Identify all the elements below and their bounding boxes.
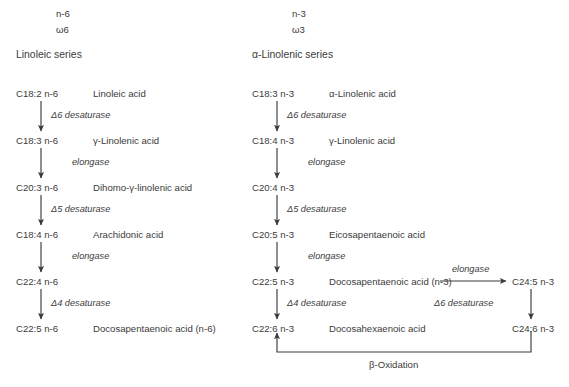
- right-step-5-acid: Docosapentaenoic acid (n-3): [329, 277, 452, 287]
- branch-bottom-code: C24:6 n-3: [512, 324, 554, 334]
- right-step-1-code: C18:3 n-3: [252, 89, 294, 99]
- right-step-1-acid: α-Linolenic acid: [329, 89, 396, 99]
- pathway-diagram: n-6 ω6 Linoleic series C18:2 n-6 Linolei…: [0, 0, 569, 387]
- left-step-1-code: C18:2 n-6: [16, 89, 58, 99]
- right-omega-n-label: n-3: [292, 9, 306, 19]
- branch-top-code: C24:5 n-3: [512, 277, 554, 287]
- right-enzyme-2: elongase: [308, 158, 345, 167]
- right-enzyme-4: elongase: [308, 252, 345, 261]
- left-enzyme-4: elongase: [72, 252, 109, 261]
- left-step-5-code: C22:4 n-6: [16, 277, 58, 287]
- left-omega-n-label: n-6: [56, 9, 70, 19]
- left-step-6-acid: Docosapentaenoic acid (n-6): [93, 324, 216, 334]
- branch-vertical-enzyme: Δ6 desaturase: [434, 299, 493, 308]
- left-omega-symbol-label: ω6: [56, 25, 69, 35]
- left-step-3-acid: Dihomo-γ-linolenic acid: [93, 183, 192, 193]
- left-step-4-acid: Arachidonic acid: [93, 230, 163, 240]
- right-enzyme-5: Δ4 desaturase: [287, 299, 346, 308]
- right-step-2-code: C18:4 n-3: [252, 136, 294, 146]
- left-enzyme-1: Δ6 desaturase: [51, 111, 110, 120]
- left-step-2-acid: γ-Linolenic acid: [93, 136, 159, 146]
- left-step-1-acid: Linoleic acid: [93, 89, 146, 99]
- left-enzyme-3: Δ5 desaturase: [51, 205, 110, 214]
- left-step-4-code: C18:4 n-6: [16, 230, 58, 240]
- left-step-2-code: C18:3 n-6: [16, 136, 58, 146]
- right-step-6-code: C22:6 n-3: [252, 324, 294, 334]
- right-omega-symbol-label: ω3: [292, 25, 305, 35]
- arrow-beta-oxidation: [277, 331, 531, 352]
- right-enzyme-1: Δ6 desaturase: [287, 111, 346, 120]
- branch-horizontal-enzyme: elongase: [452, 265, 489, 274]
- right-enzyme-3: Δ5 desaturase: [287, 205, 346, 214]
- right-series-title: α-Linolenic series: [252, 50, 333, 60]
- right-step-4-acid: Eicosapentaenoic acid: [329, 230, 425, 240]
- right-step-5-code: C22:5 n-3: [252, 277, 294, 287]
- left-step-3-code: C20:3 n-6: [16, 183, 58, 193]
- right-step-3-code: C20:4 n-3: [252, 183, 294, 193]
- left-enzyme-2: elongase: [72, 158, 109, 167]
- beta-oxidation-label: β-Oxidation: [369, 360, 418, 370]
- right-step-6-acid: Docosahexaenoic acid: [329, 324, 426, 334]
- left-series-title: Linoleic series: [16, 50, 82, 60]
- left-step-6-code: C22:5 n-6: [16, 324, 58, 334]
- right-step-4-code: C20:5 n-3: [252, 230, 294, 240]
- right-step-2-acid: γ-Linolenic acid: [329, 136, 395, 146]
- left-enzyme-5: Δ4 desaturase: [51, 299, 110, 308]
